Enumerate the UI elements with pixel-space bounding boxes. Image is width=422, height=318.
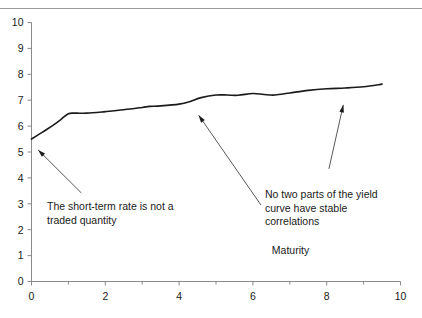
x-tick-label: 4: [176, 290, 182, 302]
y-tick-label: 8: [18, 68, 24, 80]
y-tick-label: 1: [18, 249, 24, 261]
annotation-no-stable-correlations: No two parts of the yield curve have sta…: [265, 188, 378, 229]
x-tick-label: 2: [102, 290, 108, 302]
chart-tick-labels: 0123456789100246810Maturity: [12, 16, 407, 301]
annotation-arrow-head: [199, 115, 205, 122]
y-tick-label: 0: [18, 275, 24, 287]
x-tick-label: 10: [395, 290, 407, 302]
y-tick-label: 6: [18, 120, 24, 132]
yield-curve-chart: 0123456789100246810Maturity: [0, 0, 422, 318]
chart-series: [32, 84, 383, 139]
y-tick-label: 9: [18, 42, 24, 54]
annotation-arrow-head: [339, 105, 343, 113]
y-tick-label: 4: [18, 172, 24, 184]
y-tick-label: 5: [18, 146, 24, 158]
x-tick-label: 6: [250, 290, 256, 302]
y-tick-label: 3: [18, 198, 24, 210]
chart-axes: [28, 23, 401, 286]
annotation-short-term-rate: The short-term rate is not a traded quan…: [47, 200, 174, 227]
x-tick-label: 8: [324, 290, 330, 302]
chart-figure: 0123456789100246810Maturity The short-te…: [0, 0, 422, 318]
y-tick-label: 10: [12, 16, 24, 28]
y-tick-label: 7: [18, 94, 24, 106]
annotation-arrow-shaft: [38, 150, 81, 193]
x-axis-title: Maturity: [272, 244, 310, 256]
annotation-arrow-shaft: [329, 105, 343, 169]
y-tick-label: 2: [18, 224, 24, 236]
annotation-arrow-shaft: [199, 115, 261, 205]
x-tick-label: 0: [29, 290, 35, 302]
yield-curve-line: [32, 84, 383, 139]
